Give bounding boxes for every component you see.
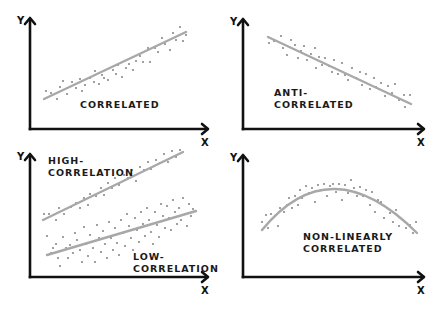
data-point [178,207,180,209]
data-point [356,195,358,197]
x-axis-label: X [417,285,425,296]
data-point [106,257,108,259]
data-point [305,185,307,187]
panel-caption: NON-LINEARLYCORRELATED [303,231,393,254]
data-point [303,45,305,47]
data-point [162,215,164,217]
data-point [384,95,386,97]
data-point [329,185,331,187]
data-point [107,182,109,184]
data-point [139,166,141,168]
data-point [147,161,149,163]
data-point [314,47,316,49]
data-point [98,83,100,85]
data-point [112,249,114,251]
data-point [283,211,285,213]
data-point [331,71,333,73]
data-point [130,237,132,239]
data-point [89,193,91,195]
data-point [167,161,169,163]
data-point [170,229,172,231]
data-point [148,219,150,221]
data-point [58,207,60,209]
data-point [341,62,343,64]
data-point [409,94,411,96]
data-point [76,239,78,241]
data-point [146,207,148,209]
data-point [46,235,48,237]
data-point [96,224,98,226]
data-point [169,49,171,51]
data-point [270,213,272,215]
data-point [311,187,313,189]
data-point [116,242,118,244]
data-point [89,234,91,236]
data-point [190,215,192,217]
data-point [107,79,109,81]
data-point [294,195,296,197]
data-point [288,197,290,199]
data-point [175,39,177,41]
data-point [156,224,158,226]
data-point [172,32,174,34]
data-point [166,205,168,207]
data-point [180,219,182,221]
y-axis-label: Y [16,151,25,162]
data-point [326,195,328,197]
data-point [112,69,114,71]
data-point [55,243,57,245]
x-axis-label: X [201,137,209,148]
x-axis-label: X [201,285,209,296]
data-point [171,150,173,152]
panel-caption: ANTI-CORRELATED [274,87,354,110]
data-point [383,217,385,219]
data-point [324,57,326,59]
data-point [94,261,96,263]
data-point [43,213,45,215]
panel-non-linearly-correlated: YXNON-LINEARLYCORRELATED [229,152,425,296]
data-point [75,87,77,89]
data-point [186,225,188,227]
data-point [120,219,122,221]
data-point [108,221,110,223]
data-point [299,189,301,191]
data-point [335,191,337,193]
data-point [87,204,89,206]
data-point [185,34,187,36]
data-point [321,64,323,66]
data-point [415,221,417,223]
data-point [142,61,144,63]
data-point [361,84,363,86]
data-point [93,81,95,83]
data-point [79,249,81,251]
data-point [265,214,267,216]
data-point [374,211,376,213]
data-point [172,199,174,201]
data-point [67,257,69,259]
data-point [50,92,52,94]
data-point [359,186,361,188]
data-point [315,67,317,69]
data-point [149,61,151,63]
data-point [337,73,339,75]
data-point [135,180,137,182]
data-point [83,226,85,228]
data-point [59,265,61,267]
data-point [144,235,146,237]
data-point [71,81,73,83]
data-point [140,211,142,213]
panel-caption: CORRELATED [80,99,160,110]
data-point [365,73,367,75]
data-point [332,183,334,185]
panel-caption-0: HIGH-CORRELATION [48,155,134,178]
data-point [62,236,64,238]
data-point [387,85,389,87]
data-point [52,247,54,249]
data-point [404,106,406,108]
data-point [161,37,163,39]
data-point [277,225,279,227]
data-point [394,83,396,85]
data-point [79,78,81,80]
data-point [138,241,140,243]
data-point [268,42,270,44]
